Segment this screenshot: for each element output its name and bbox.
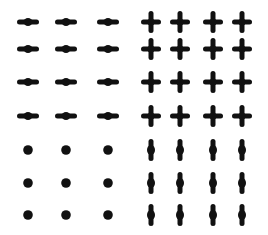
plus-icon	[230, 103, 254, 129]
plus-icon	[201, 103, 225, 129]
vertical-dash-icon	[236, 202, 248, 228]
vertical-dash-icon	[236, 137, 248, 163]
plus-icon	[168, 36, 192, 62]
dot-icon	[22, 177, 34, 189]
dot-icon	[22, 144, 34, 156]
dot-icon	[102, 209, 114, 221]
horizontal-dash-icon	[15, 76, 41, 88]
plus-icon	[139, 103, 163, 129]
horizontal-dash-icon	[53, 110, 79, 122]
dot-icon	[102, 144, 114, 156]
horizontal-dash-icon	[53, 43, 79, 55]
dot-icon	[60, 209, 72, 221]
plus-icon	[230, 9, 254, 35]
plus-icon	[201, 9, 225, 35]
plus-icon	[201, 69, 225, 95]
plus-icon	[230, 36, 254, 62]
horizontal-dash-icon	[95, 43, 121, 55]
horizontal-dash-icon	[95, 16, 121, 28]
vertical-dash-icon	[207, 137, 219, 163]
horizontal-dash-icon	[15, 16, 41, 28]
plus-icon	[168, 69, 192, 95]
horizontal-dash-icon	[53, 16, 79, 28]
plus-icon	[230, 69, 254, 95]
vertical-dash-icon	[174, 170, 186, 196]
vertical-dash-icon	[174, 137, 186, 163]
plus-icon	[168, 103, 192, 129]
horizontal-dash-icon	[53, 76, 79, 88]
vertical-dash-icon	[174, 202, 186, 228]
plus-icon	[201, 36, 225, 62]
dot-icon	[102, 177, 114, 189]
horizontal-dash-icon	[95, 110, 121, 122]
horizontal-dash-icon	[15, 110, 41, 122]
vertical-dash-icon	[145, 170, 157, 196]
dot-icon	[60, 144, 72, 156]
dot-icon	[22, 209, 34, 221]
vertical-dash-icon	[145, 137, 157, 163]
plus-icon	[168, 9, 192, 35]
horizontal-dash-icon	[95, 76, 121, 88]
vertical-dash-icon	[207, 202, 219, 228]
horizontal-dash-icon	[15, 43, 41, 55]
vertical-dash-icon	[145, 202, 157, 228]
plus-icon	[139, 9, 163, 35]
plus-icon	[139, 36, 163, 62]
vertical-dash-icon	[207, 170, 219, 196]
dot-icon	[60, 177, 72, 189]
vertical-dash-icon	[236, 170, 248, 196]
plus-icon	[139, 69, 163, 95]
